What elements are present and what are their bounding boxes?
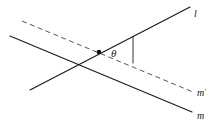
figure-background <box>0 0 219 127</box>
geometry-figure: l m m′ θ <box>0 0 219 127</box>
vertex-point-dot <box>97 50 102 55</box>
label-m-prime-base: m <box>197 87 204 98</box>
figure-canvas: l m m′ θ <box>0 0 219 127</box>
label-line-m: m <box>197 110 204 121</box>
label-line-l: l <box>194 8 197 19</box>
label-angle-theta: θ <box>111 47 117 59</box>
